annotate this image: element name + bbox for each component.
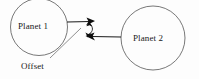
planet1-label: Planet 1 <box>18 21 48 31</box>
offset-leader-line <box>50 28 81 58</box>
planet2-label: Planet 2 <box>133 33 163 43</box>
diagram-canvas: Planet 1 Planet 2 Offset <box>0 0 199 79</box>
offset-label: Offset <box>21 61 44 71</box>
connector-planet1-line <box>67 22 90 23</box>
connector-planet2-line <box>92 37 121 38</box>
